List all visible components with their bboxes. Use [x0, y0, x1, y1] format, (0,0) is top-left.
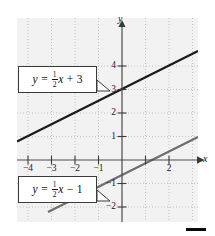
y-axis: [118, 20, 125, 222]
fraction-one-half-lower: 1 2: [52, 181, 58, 198]
xtick-label--4: −4: [22, 164, 34, 174]
x-axis-label: x: [203, 154, 207, 164]
page-artifact-mark: [186, 228, 206, 231]
ytick-label--2: −2: [102, 202, 116, 212]
xtick-label--1: −1: [93, 164, 105, 174]
ytick-label-2: 2: [104, 108, 116, 118]
ytick-label--1: −1: [102, 179, 116, 189]
xtick-label--2: −2: [69, 164, 81, 174]
equation-callout-upper: y = 1 2 x + 3: [18, 66, 97, 93]
xtick-label--3: −3: [46, 164, 58, 174]
ytick-label-4: 4: [104, 61, 116, 71]
y-axis-label: y: [118, 14, 122, 24]
graph-figure: −4 −3 −2 −1 2 4 3 2 1 −1 −2 x y y = 1 2 …: [0, 0, 215, 236]
xtick-label-2: 2: [163, 164, 175, 174]
ytick-label-3: 3: [104, 85, 116, 95]
ytick-label-1: 1: [104, 132, 116, 142]
x-axis: [17, 156, 205, 163]
equation-callout-lower: y = 1 2 x − 1: [18, 176, 97, 203]
fraction-one-half-upper: 1 2: [52, 71, 58, 88]
callout-tail-bottom: [97, 190, 110, 201]
equation-upper: y = 1 2 x + 3: [33, 71, 83, 88]
equation-lower: y = 1 2 x − 1: [33, 181, 83, 198]
